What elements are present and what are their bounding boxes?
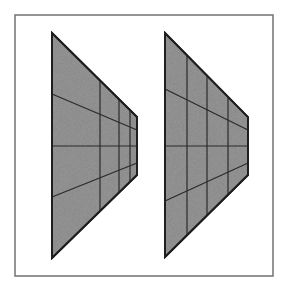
diagram-canvas: Two perspective trapezoids with grid lin…: [0, 0, 293, 286]
diagram-svg: [0, 0, 293, 286]
